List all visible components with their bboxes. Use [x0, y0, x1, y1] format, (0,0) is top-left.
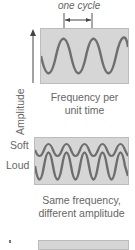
- next-diagram-mark: [9, 240, 11, 243]
- soft-loud-waves-icon: [35, 138, 128, 184]
- frequency-panel: [40, 28, 129, 84]
- amplitude-caption: Same frequency, different amplitude: [28, 194, 135, 220]
- caption-line: unit time: [40, 104, 129, 117]
- soft-label: Soft: [10, 139, 29, 151]
- caption-line: different amplitude: [28, 207, 135, 220]
- next-diagram-panel: [38, 240, 129, 250]
- amplitude-panel: [34, 137, 129, 185]
- amplitude-arrow-icon: [29, 29, 37, 84]
- amplitude-axis-label: Amplitude: [14, 83, 28, 135]
- frequency-caption: Frequency per unit time: [40, 91, 129, 117]
- loud-wave: [35, 153, 128, 180]
- soft-wave: [35, 144, 128, 156]
- sine-wave-icon: [41, 29, 128, 83]
- caption-line: Same frequency,: [28, 194, 135, 207]
- caption-line: Frequency per: [40, 91, 129, 104]
- loud-label: Loud: [6, 159, 29, 171]
